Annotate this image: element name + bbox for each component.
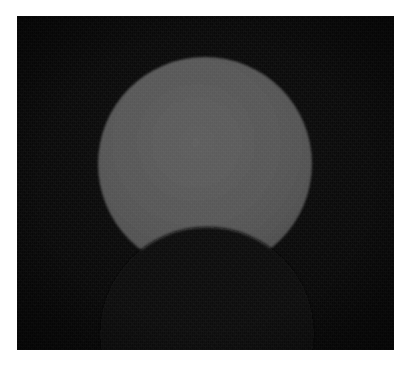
photo-frame: Partial solar eclipse: the dark lunar di… bbox=[0, 0, 411, 368]
moon-disc bbox=[100, 227, 314, 350]
eclipse-photograph bbox=[17, 16, 394, 350]
sky-stage bbox=[17, 16, 394, 350]
image-caption: Partial solar eclipse: the dark lunar di… bbox=[0, 0, 1, 1]
eclipse-diagram bbox=[17, 16, 394, 350]
